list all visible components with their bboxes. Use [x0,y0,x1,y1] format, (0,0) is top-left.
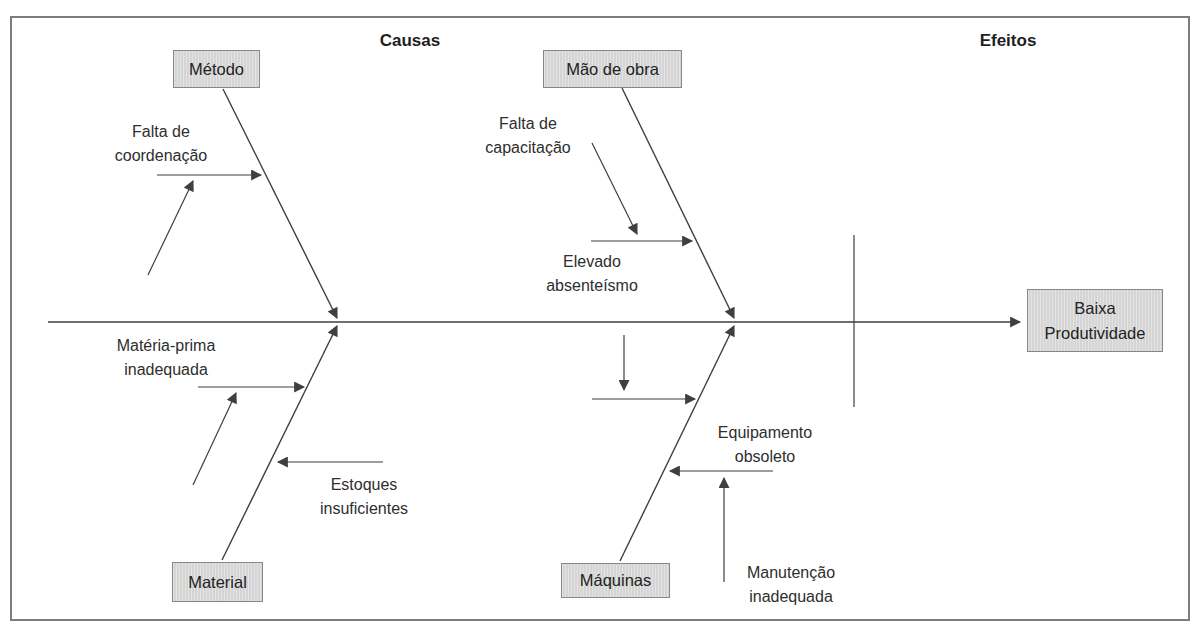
effects-title: Efeitos [980,31,1037,51]
cause-label-estoques: Estoques insuficientes [320,473,408,521]
unlabeled-sub-arrow-metodo [148,181,193,275]
category-box-metodo: Método [173,50,260,88]
cause-label-equipamento-obsoleto: Equipamento obsoleto [718,421,812,469]
category-box-mao-de-obra: Mão de obra [543,50,682,88]
category-box-maquinas: Máquinas [561,563,670,598]
causes-title: Causas [380,31,440,51]
category-box-material: Material [172,562,263,602]
cause-label-manutencao-inadequada: Manutenção inadequada [747,561,835,609]
falta-capacitacao-arrow [592,143,637,234]
fishbone-diagram: Causas Efeitos Método Mão de obra Materi… [0,0,1202,643]
cause-label-elevado-absenteismo: Elevado absenteísmo [546,250,638,298]
effect-box-baixa-produtividade: Baixa Produtividade [1027,289,1163,352]
mao-de-obra-bone-line [622,88,734,318]
cause-label-falta-capacitacao: Falta de capacitação [485,112,570,160]
diagram-lines-layer [0,0,1202,643]
cause-label-materia-prima: Matéria-prima inadequada [117,334,216,382]
unlabeled-sub-arrow-material [193,393,236,485]
cause-label-falta-coordenacao: Falta de coordenação [115,120,208,168]
metodo-bone-line [223,89,337,318]
material-bone-line [222,326,337,560]
